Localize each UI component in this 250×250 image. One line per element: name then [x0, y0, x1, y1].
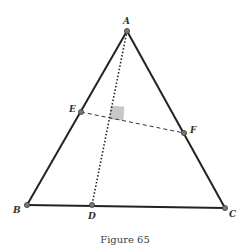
- point-e: [78, 109, 83, 114]
- label-d: D: [87, 211, 96, 221]
- label-f: F: [189, 125, 197, 135]
- segment-bc: [27, 205, 225, 208]
- point-c: [222, 205, 227, 210]
- label-b: B: [12, 205, 21, 215]
- segment-ef-dashed: [81, 112, 184, 133]
- point-d: [89, 202, 94, 207]
- label-c: C: [229, 209, 237, 219]
- label-e: E: [68, 104, 76, 114]
- point-f: [181, 130, 186, 135]
- figure-caption: Figure 65: [0, 234, 250, 245]
- point-b: [24, 202, 29, 207]
- triangle-diagram: A B C D E F: [0, 0, 250, 250]
- label-a: A: [122, 16, 130, 26]
- segment-ac: [127, 31, 225, 208]
- point-a: [124, 28, 129, 33]
